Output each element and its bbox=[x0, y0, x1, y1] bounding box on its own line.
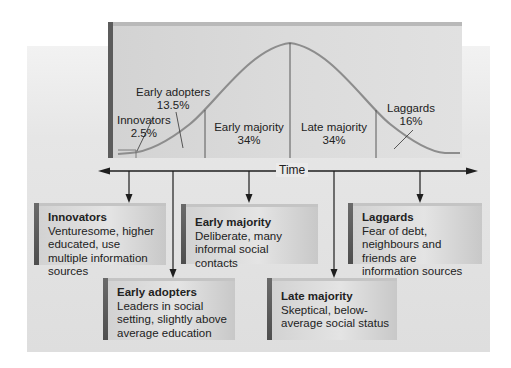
box-description: Fear of debt, neighbours and friends are… bbox=[362, 225, 476, 279]
box-description: Venturesome, higher educated, use multip… bbox=[48, 225, 160, 279]
label-late-majority: Late majority 34% bbox=[297, 121, 371, 147]
box-early-adopters: Early adopters Leaders in social setting… bbox=[108, 278, 235, 340]
box-title: Innovators bbox=[48, 211, 160, 225]
time-axis-label: Time bbox=[276, 163, 308, 177]
box-title: Early adopters bbox=[117, 286, 229, 300]
time-axis-left-arrow bbox=[98, 168, 110, 175]
label-early-adopters: Early adopters 13.5% bbox=[136, 86, 210, 112]
box-innovators: Innovators Venturesome, higher educated,… bbox=[39, 203, 166, 265]
time-axis-right-arrow bbox=[466, 168, 478, 175]
label-early-majority: Early majority 34% bbox=[212, 121, 286, 147]
box-late-majority: Late majority Skeptical, below-average s… bbox=[272, 278, 397, 340]
box-description: Leaders in social setting, slightly abov… bbox=[117, 300, 229, 341]
diagram-lines bbox=[0, 0, 511, 368]
box-laggards: Laggards Fear of debt, neighbours and fr… bbox=[353, 203, 482, 264]
box-early-majority: Early majority Deliberate, many informal… bbox=[186, 204, 318, 264]
label-laggards: Laggards 16% bbox=[386, 102, 436, 128]
box-description: Skeptical, below-average social status bbox=[281, 304, 391, 331]
box-title: Laggards bbox=[362, 211, 476, 225]
label-innovators: Innovators 2.5% bbox=[117, 114, 171, 140]
box-description: Deliberate, many informal social contact… bbox=[195, 230, 312, 271]
box-title: Early majority bbox=[195, 216, 312, 230]
box-title: Late majority bbox=[281, 290, 391, 304]
